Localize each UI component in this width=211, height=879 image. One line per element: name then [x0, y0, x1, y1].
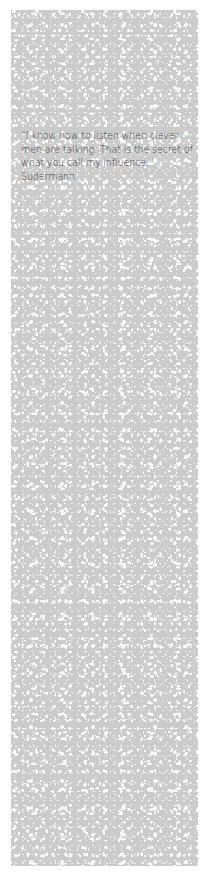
quote-author: Sudermann — [21, 170, 201, 184]
quote-text: “I know how to listen when clever men ar… — [21, 129, 201, 170]
quote-block: “I know how to listen when clever men ar… — [21, 129, 201, 183]
textured-quote-panel: “I know how to listen when clever men ar… — [11, 10, 198, 866]
